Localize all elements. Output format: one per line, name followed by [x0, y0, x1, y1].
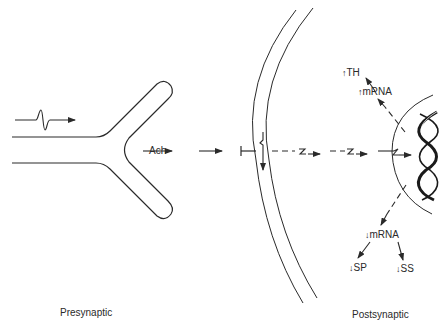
second-messenger-path: [272, 149, 411, 155]
postsynaptic-membrane: [252, 8, 317, 303]
membrane-inner: [266, 8, 317, 298]
membrane-signal: [260, 132, 263, 170]
dna-helix: [418, 110, 440, 200]
membrane-arrow: [260, 132, 263, 170]
wave-arrow: [15, 110, 75, 130]
mrna-down-label: ↓mRNA: [365, 230, 399, 240]
th-label: ↑TH: [342, 68, 360, 78]
dna-strand-1: [418, 112, 437, 200]
synapse-diagram: [0, 0, 445, 331]
zigzag-1: [299, 149, 306, 154]
postsynaptic-label: Postsynaptic: [352, 310, 409, 320]
downregulation-path: [358, 185, 406, 260]
mrna-up-label: ↑mRNA: [358, 87, 392, 97]
zigzag-3: [393, 149, 399, 155]
ach-label: Ach: [149, 146, 166, 156]
membrane-outer: [252, 10, 303, 303]
action-potential-arrow: [15, 110, 75, 130]
sp-label: ↓SP: [349, 263, 367, 273]
ss-label: ↓SS: [396, 264, 414, 274]
zigzag-2: [347, 149, 354, 154]
presynaptic-label: Presynaptic: [60, 308, 112, 318]
